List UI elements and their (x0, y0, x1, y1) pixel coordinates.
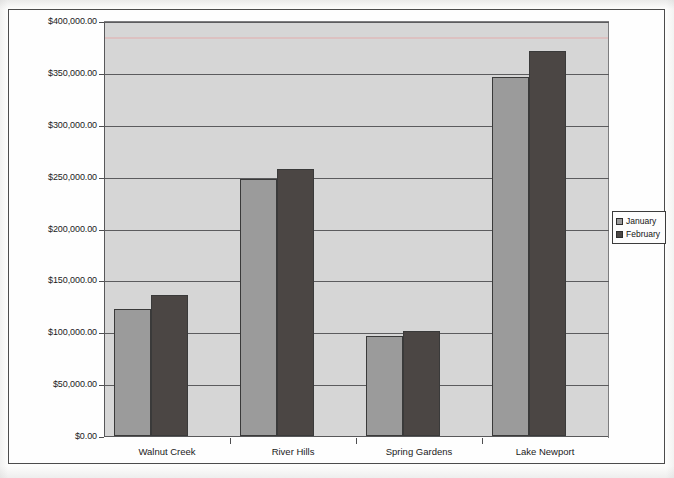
plot-area (104, 22, 608, 437)
bar-february-walnut-creek (151, 295, 188, 436)
x-axis-label-lake-newport: Lake Newport (482, 446, 608, 457)
legend-item-february[interactable]: February (616, 228, 663, 241)
y-axis-label: $350,000.00 (1, 68, 97, 78)
y-axis-label: $100,000.00 (1, 327, 97, 337)
y-axis-tick (99, 385, 104, 386)
y-axis-label: $200,000.00 (1, 224, 97, 234)
bar-january-walnut-creek (114, 309, 151, 436)
y-axis-label: $400,000.00 (1, 16, 97, 26)
bar-january-lake-newport (492, 77, 529, 436)
gridline (105, 22, 609, 23)
y-axis-tick (99, 178, 104, 179)
bar-chart: $0.00$50,000.00$100,000.00$150,000.00$20… (0, 0, 674, 478)
y-axis-label: $150,000.00 (1, 275, 97, 285)
bar-january-river-hills (240, 179, 277, 436)
y-axis-tick (99, 74, 104, 75)
legend-label: February (626, 230, 660, 239)
x-axis-tick (482, 438, 483, 444)
bar-january-spring-gardens (366, 336, 403, 436)
legend-swatch-february-icon (616, 231, 623, 238)
y-axis-tick (99, 333, 104, 334)
y-axis-tick (99, 126, 104, 127)
scanned-page: $0.00$50,000.00$100,000.00$150,000.00$20… (0, 0, 674, 478)
bar-february-river-hills (277, 169, 314, 436)
y-axis-tick (99, 437, 104, 438)
x-axis-label-river-hills: River Hills (230, 446, 356, 457)
y-axis-label: $300,000.00 (1, 120, 97, 130)
y-axis-tick (99, 281, 104, 282)
legend-swatch-january-icon (616, 218, 623, 225)
y-axis: $0.00$50,000.00$100,000.00$150,000.00$20… (0, 0, 97, 478)
bar-february-lake-newport (529, 51, 566, 436)
y-axis-label: $0.00 (1, 431, 97, 441)
x-axis-tick (356, 438, 357, 444)
legend-item-january[interactable]: January (616, 215, 663, 228)
y-axis-tick (99, 22, 104, 23)
x-axis-label-spring-gardens: Spring Gardens (356, 446, 482, 457)
legend-label: January (626, 217, 656, 226)
chart-legend: JanuaryFebruary (612, 211, 666, 244)
y-axis-label: $50,000.00 (1, 379, 97, 389)
y-axis-tick (99, 230, 104, 231)
x-axis-tick (230, 438, 231, 444)
x-axis-label-walnut-creek: Walnut Creek (104, 446, 230, 457)
y-axis-label: $250,000.00 (1, 172, 97, 182)
bar-february-spring-gardens (403, 331, 440, 436)
